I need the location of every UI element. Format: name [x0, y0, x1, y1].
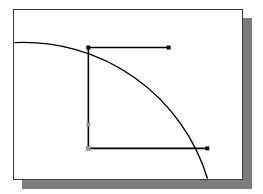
grip-top-right[interactable]	[167, 46, 171, 50]
polyline-layer	[88, 48, 207, 149]
app-root: CAD Drawing Canvas drawing-area	[0, 0, 263, 194]
marker-left-midpoint	[86, 123, 90, 127]
arc-layer	[15, 42, 207, 178]
marker-bottom-left-corner	[86, 146, 91, 151]
grip-bottom-right[interactable]	[205, 146, 209, 150]
grip-top-left[interactable]	[86, 46, 90, 50]
grip-handle-layer	[86, 46, 209, 151]
quarter-circle-arc[interactable]	[15, 42, 207, 178]
drawing-panel[interactable]	[13, 9, 243, 180]
drawing-canvas[interactable]	[14, 10, 242, 179]
